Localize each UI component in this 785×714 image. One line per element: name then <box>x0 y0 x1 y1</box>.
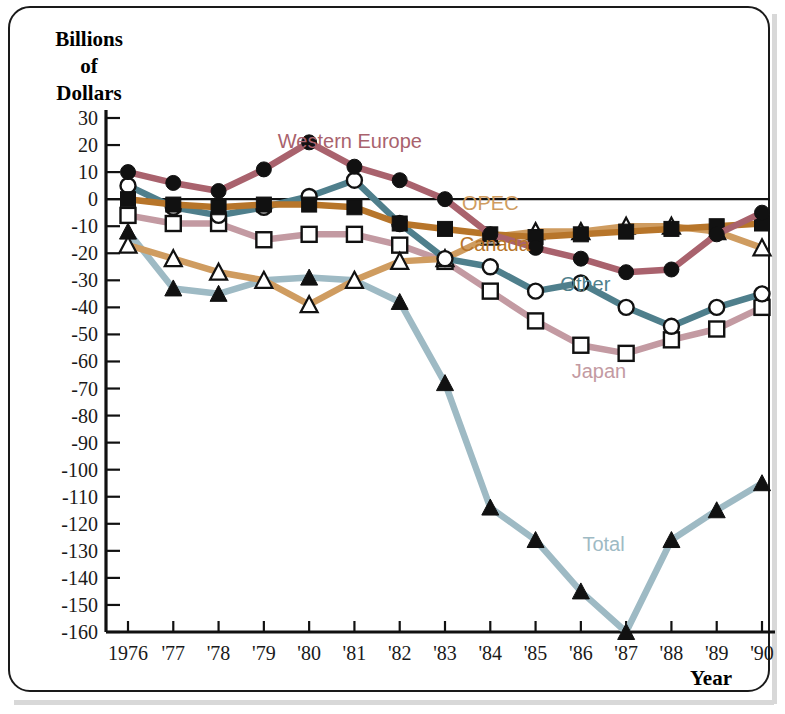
series-label-total: Total <box>582 533 624 555</box>
marker-open-circle <box>709 300 724 315</box>
marker-filled-square <box>211 200 226 215</box>
marker-filled-circle <box>619 265 634 280</box>
y-tick-label: -90 <box>71 432 98 454</box>
y-tick-label: -20 <box>71 242 98 264</box>
marker-open-square <box>483 284 498 299</box>
marker-filled-square <box>664 221 679 236</box>
marker-open-circle <box>121 178 136 193</box>
y-tick-label: -110 <box>62 486 98 508</box>
marker-open-circle <box>619 300 634 315</box>
y-tick-label: 10 <box>78 161 98 183</box>
y-tick-label: -150 <box>61 594 98 616</box>
series-label-other: Other <box>560 273 610 295</box>
y-tick-label: -120 <box>61 513 98 535</box>
y-tick-label: -160 <box>61 621 98 643</box>
marker-filled-circle <box>121 165 136 180</box>
marker-filled-circle <box>528 240 543 255</box>
marker-open-square <box>347 227 362 242</box>
y-tick-label: -140 <box>61 567 98 589</box>
x-tick-label: '78 <box>207 642 231 664</box>
marker-filled-circle <box>664 262 679 277</box>
y-axis-title-line-1: Billions <box>34 26 144 53</box>
x-axis-title: Year <box>690 666 732 691</box>
marker-open-circle <box>755 286 770 301</box>
series-label-western-europe: Western Europe <box>278 130 422 152</box>
series-label-japan: Japan <box>572 360 627 382</box>
marker-open-square <box>709 322 724 337</box>
series-label-canada: Canada <box>460 233 531 255</box>
marker-open-square <box>256 232 271 247</box>
y-tick-label: -40 <box>71 296 98 318</box>
marker-filled-circle <box>211 184 226 199</box>
line-chart-canvas: 3020100-10-20-30-40-50-60-70-80-90-100-1… <box>0 0 785 714</box>
marker-open-circle <box>483 259 498 274</box>
marker-filled-circle <box>166 175 181 190</box>
marker-filled-triangle <box>482 499 499 515</box>
marker-filled-square <box>619 224 634 239</box>
marker-filled-circle <box>256 162 271 177</box>
marker-filled-triangle <box>754 475 771 491</box>
series-group <box>120 135 771 640</box>
x-tick-label: '90 <box>750 642 774 664</box>
x-tick-label: '79 <box>252 642 276 664</box>
marker-open-circle <box>664 319 679 334</box>
marker-filled-circle <box>347 159 362 174</box>
series-line <box>128 232 762 632</box>
marker-open-square <box>166 216 181 231</box>
marker-filled-circle <box>573 251 588 266</box>
marker-filled-circle <box>438 192 453 207</box>
marker-filled-square <box>302 197 317 212</box>
marker-open-circle <box>347 173 362 188</box>
x-tick-label: '84 <box>478 642 502 664</box>
y-tick-label: 30 <box>78 107 98 129</box>
x-tick-label: '89 <box>705 642 729 664</box>
series-label-opec: OPEC <box>462 192 519 214</box>
y-tick-label: -60 <box>71 350 98 372</box>
x-tick-label: '88 <box>660 642 684 664</box>
x-tick-label: '80 <box>297 642 321 664</box>
marker-open-square <box>121 208 136 223</box>
marker-open-circle <box>438 251 453 266</box>
marker-filled-square <box>438 221 453 236</box>
x-tick-label: '81 <box>343 642 367 664</box>
y-tick-label: 20 <box>78 134 98 156</box>
y-tick-label: -10 <box>71 215 98 237</box>
y-tick-label: -100 <box>61 459 98 481</box>
marker-open-circle <box>528 284 543 299</box>
marker-open-square <box>392 238 407 253</box>
marker-open-square <box>528 313 543 328</box>
marker-filled-circle <box>709 227 724 242</box>
chart-figure: 3020100-10-20-30-40-50-60-70-80-90-100-1… <box>0 0 785 714</box>
marker-filled-circle <box>755 205 770 220</box>
marker-filled-square <box>392 216 407 231</box>
y-axis-title: Billions of Dollars <box>34 26 144 107</box>
y-axis-title-line-3: Dollars <box>34 80 144 107</box>
y-tick-label: 0 <box>88 188 98 210</box>
marker-filled-square <box>166 197 181 212</box>
x-tick-label: '85 <box>524 642 548 664</box>
y-tick-label: -50 <box>71 323 98 345</box>
series-total <box>120 223 771 639</box>
y-tick-label: -80 <box>71 405 98 427</box>
marker-filled-square <box>256 197 271 212</box>
x-tick-label: '87 <box>614 642 638 664</box>
y-axis-title-line-2: of <box>34 53 144 80</box>
marker-open-square <box>619 346 634 361</box>
marker-filled-square <box>347 200 362 215</box>
y-tick-label: -30 <box>71 269 98 291</box>
x-tick-label: '86 <box>569 642 593 664</box>
marker-filled-square <box>573 227 588 242</box>
marker-filled-circle <box>392 173 407 188</box>
x-tick-label: 1976 <box>108 642 148 664</box>
marker-filled-square <box>121 192 136 207</box>
y-tick-label: -70 <box>71 378 98 400</box>
x-tick-label: '83 <box>433 642 457 664</box>
marker-open-square <box>573 338 588 353</box>
y-tick-label: -130 <box>61 540 98 562</box>
marker-open-square <box>302 227 317 242</box>
x-tick-label: '82 <box>388 642 412 664</box>
x-tick-label: '77 <box>161 642 185 664</box>
